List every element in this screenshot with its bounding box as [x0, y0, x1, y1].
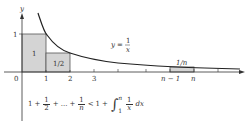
plus: + [69, 100, 75, 108]
ellipsis: ... [61, 100, 68, 108]
denominator: x [127, 105, 131, 112]
fraction-one-over-x: 1 x [126, 97, 132, 112]
rect-half-label: 1/2 [53, 60, 64, 68]
x-tick-label-1: 1 [44, 75, 48, 83]
y-axis-label: y [19, 5, 25, 13]
x-axis-arrow-icon [239, 70, 245, 74]
y-tick-label-1: 1 [13, 31, 17, 39]
plus: + [34, 100, 40, 108]
curve-label-den: x [126, 46, 130, 54]
x-tick-label-3: 3 [92, 75, 96, 83]
term-one: 1 [28, 100, 32, 108]
fraction-one-half: 1 2 [43, 97, 49, 112]
upper-limit: n [118, 94, 122, 101]
fraction-one-over-n: 1 n [78, 97, 84, 112]
integral: ∫ n 1 [111, 94, 122, 114]
x-tick-label-2: 2 [68, 75, 72, 83]
plus: + [102, 100, 108, 108]
origin-label: 0 [14, 75, 18, 83]
rect-one-over-n-label: 1/n [176, 59, 188, 67]
term-one: 1 [96, 100, 100, 108]
curve-label-eq: = [117, 41, 123, 49]
integral-limits: n 1 [118, 94, 122, 114]
y-axis-arrow-icon [20, 13, 24, 19]
curve-label-lhs: y [110, 41, 116, 49]
x-tick-label-n-minus-1: n − 1 [161, 75, 180, 83]
curve-label-num: 1 [126, 37, 130, 45]
differential: dx [136, 100, 144, 108]
less-than: < [88, 100, 94, 108]
inequality-formula: 1 + 1 2 + ... + 1 n < 1 + ∫ n 1 1 x dx [28, 93, 144, 115]
x-tick-label-n: n [191, 75, 196, 83]
denominator: n [79, 105, 84, 112]
plus: + [53, 100, 59, 108]
rect-unit-label: 1 [32, 50, 36, 58]
lower-limit: 1 [118, 107, 122, 114]
integral-sign: ∫ [111, 97, 118, 111]
denominator: 2 [44, 105, 48, 112]
